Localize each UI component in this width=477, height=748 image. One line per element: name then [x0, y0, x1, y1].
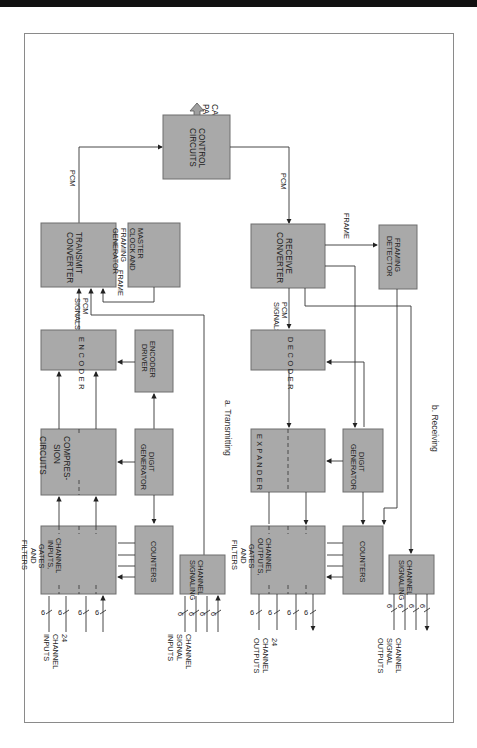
svg-text:6: 6	[268, 608, 272, 617]
svg-text:6: 6	[58, 608, 62, 617]
pcm-signals-rx-label: PCM SIGNALS	[272, 302, 290, 334]
channel-signal-inputs-label: CHANNEL SIGNAL INPUTS	[166, 634, 193, 671]
transmit-converter-label: TRANSMIT CONVERTER	[65, 232, 83, 283]
control-circuits-label: CONTROL CIRCUITS	[188, 128, 206, 170]
svg-text:6: 6	[250, 608, 254, 617]
svg-text:6: 6	[287, 608, 291, 617]
signals-rx-line	[305, 288, 411, 553]
channel-signal-outputs-label: CHANNEL SIGNAL OUTPUTS	[376, 638, 403, 675]
frame-tx-label: FRAME	[116, 270, 125, 296]
encoder-label: ENCODER	[77, 337, 86, 392]
counters-rx-label: COUNTERS	[358, 541, 367, 583]
caption-receiving: b. Receiving	[430, 405, 440, 452]
receive-converter-label: RECEIVE CONVERTER	[275, 232, 293, 283]
svg-text:6: 6	[176, 612, 185, 616]
framing-to-counters-line	[384, 289, 397, 524]
channel-signaling-tx-label: CHANNEL SIGNALING	[188, 560, 206, 600]
svg-text:6: 6	[418, 604, 427, 608]
24-channel-outputs-label: 24 CHANNEL OUTPUTS	[252, 638, 279, 675]
expander-label: EXPANDER	[255, 434, 264, 493]
channel-inputs-label: CHANNEL INPUTS, GATES AND FILTERS	[20, 538, 63, 575]
pcm-rx-label: PCM	[279, 173, 288, 189]
frame-tx-line	[103, 287, 154, 302]
svg-text:6: 6	[407, 604, 416, 608]
counters-tx-label: COUNTERS	[149, 541, 158, 583]
signals-tx-line	[91, 289, 204, 555]
svg-text:6: 6	[385, 604, 394, 608]
svg-text:6: 6	[41, 608, 45, 617]
pcm-signals-tx-label: PCM SIGNALS	[73, 298, 91, 330]
frame-rx-label: FRAME	[342, 213, 351, 239]
decoder-label: DECODER	[286, 337, 295, 392]
24-channel-inputs-label: 24 CHANNEL INPUTS	[42, 634, 69, 671]
svg-text:6: 6	[198, 612, 207, 616]
svg-text:6: 6	[209, 612, 218, 616]
caption-transmitting: a. Transmitting	[223, 400, 233, 456]
svg-text:6: 6	[187, 612, 196, 616]
digitgen-to-decoder-line	[327, 362, 364, 427]
pcm-tx-label: PCM	[68, 170, 77, 186]
pcm-tx-to-control-line	[79, 147, 162, 224]
svg-text:6: 6	[304, 608, 308, 617]
rx-to-digitgen-line	[325, 266, 355, 427]
t1-carrier-block-diagram: CABLE PAIRS CONTROL CIRCUITS PCM PCM TRA…	[0, 0, 477, 748]
svg-text:6: 6	[78, 608, 82, 617]
svg-text:6: 6	[95, 608, 99, 617]
svg-text:6: 6	[396, 604, 405, 608]
counters-to-inputs-lines	[118, 543, 135, 577]
framing-detector-label: FRAMING DETECTOR	[385, 236, 403, 277]
